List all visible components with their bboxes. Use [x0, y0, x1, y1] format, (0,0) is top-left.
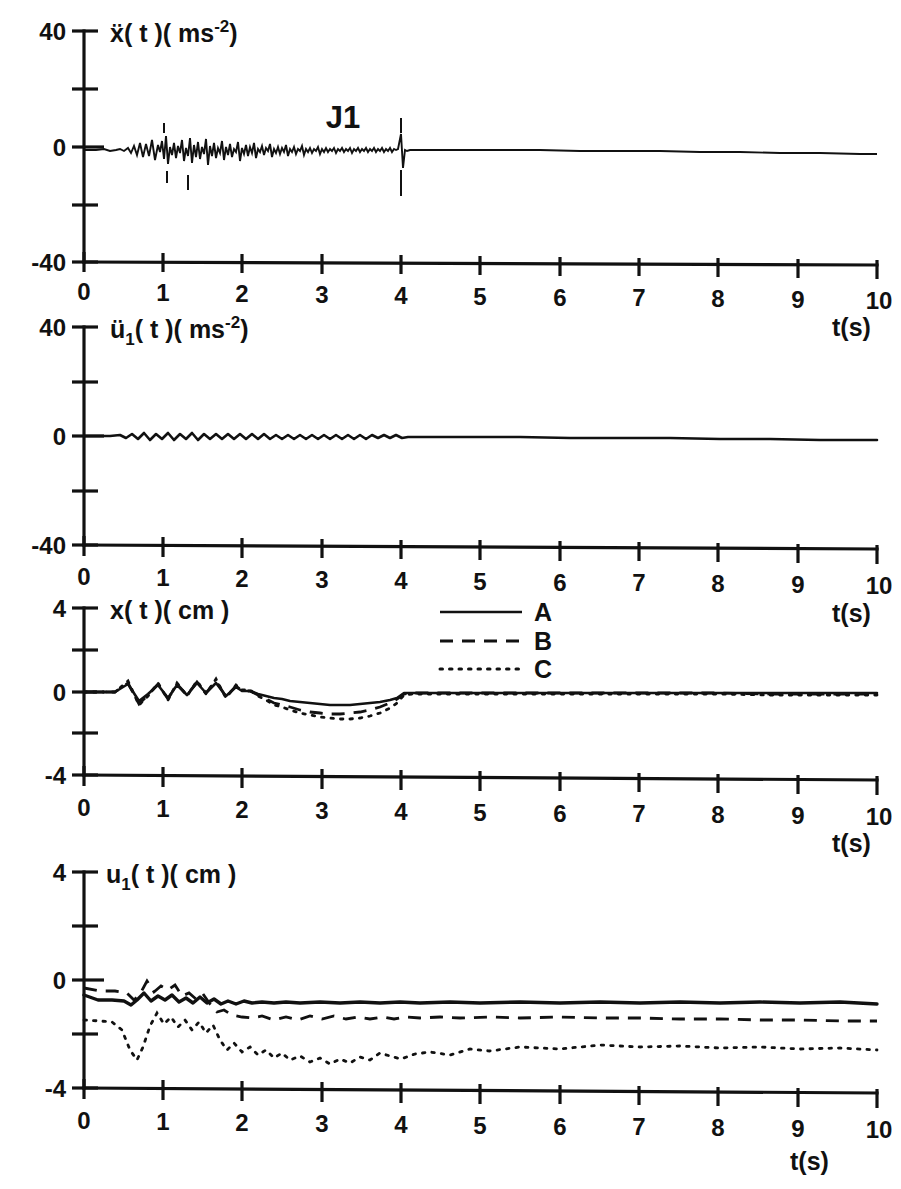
panel2-ylabel-40: 40 — [39, 314, 66, 341]
panel4-x-axis-unit: t(s) — [790, 1147, 829, 1175]
panel4-xlabel-1: 1 — [156, 1108, 169, 1135]
panel3-xlabel-1: 1 — [156, 795, 169, 822]
panel4-xlabel-10: 10 — [866, 1116, 893, 1143]
panel1-x-axis-unit: t(s) — [832, 313, 871, 341]
panel3-xlabel-6: 6 — [553, 800, 566, 827]
panel3-xlabel-9: 9 — [791, 802, 804, 829]
panel1-xlabel-3: 3 — [315, 281, 328, 308]
panel3-xlabel-5: 5 — [473, 799, 486, 826]
panel4-ylabel-0: 0 — [53, 967, 66, 994]
figure-container: 40 0 -40 ẍ( t )( ms-2) 0 1 2 3 — [0, 0, 901, 1189]
legend-label-c: C — [534, 655, 552, 683]
panel2-y-axis-title: ü1( t )( ms-2) — [110, 313, 248, 349]
panel2-xlabel-1: 1 — [156, 564, 169, 591]
panel4-xlabel-6: 6 — [553, 1113, 566, 1140]
panel1-y-axis-title: ẍ( t )( ms-2) — [110, 17, 238, 47]
panel2-xlabel-2: 2 — [235, 565, 248, 592]
panel-accel-ground: 40 0 -40 ẍ( t )( ms-2) 0 1 2 3 — [31, 17, 892, 341]
panel2-trace-a — [84, 433, 877, 440]
panel1-ylabel-40: 40 — [39, 18, 66, 45]
panel1-xlabel-1: 1 — [156, 279, 169, 306]
panel2-ylabel-0: 0 — [53, 423, 66, 450]
panel2-xlabel-7: 7 — [632, 569, 645, 596]
panel2-xlabel-3: 3 — [315, 566, 328, 593]
panel4-y-axis-title: u1( t )( cm ) — [106, 860, 236, 894]
panel-disp-ground: 4 0 -4 x( t )( cm ) A B C 0 — [45, 595, 893, 857]
panel3-x-axis-unit: t(s) — [832, 829, 871, 857]
panel4-xlabel-0: 0 — [77, 1107, 90, 1134]
multi-panel-time-history-figure: 40 0 -40 ẍ( t )( ms-2) 0 1 2 3 — [0, 0, 901, 1189]
panel4-xlabel-5: 5 — [473, 1112, 486, 1139]
panel1-xlabel-5: 5 — [473, 283, 486, 310]
panel2-xlabel-0: 0 — [77, 563, 90, 590]
panel4-xlabel-3: 3 — [315, 1110, 328, 1137]
panel2-ylabel-neg40: -40 — [31, 532, 66, 559]
panel3-ylabel-4: 4 — [53, 595, 67, 622]
panel4-xlabel-9: 9 — [791, 1115, 804, 1142]
legend-label-a: A — [534, 598, 552, 626]
panel3-trace-c — [84, 679, 877, 719]
panel4-ylabel-neg4: -4 — [45, 1075, 67, 1102]
panel1-xlabel-6: 6 — [553, 284, 566, 311]
panel1-xlabel-4: 4 — [394, 282, 408, 309]
panel3-xlabel-3: 3 — [315, 797, 328, 824]
panel-tag-j1: J1 — [326, 100, 360, 135]
panel1-ylabel-0: 0 — [53, 134, 66, 161]
panel4-trace-c — [84, 1013, 877, 1064]
panel3-ylabel-neg4: -4 — [45, 762, 67, 789]
panel4-y-axis-title-text: u1( t )( cm ) — [106, 860, 236, 894]
panel1-xlabel-10: 10 — [866, 287, 893, 314]
panel3-xlabel-7: 7 — [632, 800, 645, 827]
panel2-x-tick-labels: 0 1 2 3 4 5 6 7 8 9 10 — [77, 563, 892, 599]
panel4-xlabel-7: 7 — [632, 1113, 645, 1140]
panel4-xlabel-2: 2 — [235, 1109, 248, 1136]
panel3-xlabel-10: 10 — [866, 803, 893, 830]
panel1-xlabel-7: 7 — [632, 284, 645, 311]
panel3-ylabel-0: 0 — [53, 679, 66, 706]
panel2-xlabel-9: 9 — [791, 571, 804, 598]
panel-accel-response: 40 0 -40 ü1( t )( ms-2) 0 1 2 3 4 — [31, 313, 892, 627]
legend: A B C — [440, 598, 552, 683]
panel2-xlabel-4: 4 — [394, 567, 408, 594]
panel3-xlabel-8: 8 — [711, 801, 724, 828]
panel1-xlabel-2: 2 — [235, 280, 248, 307]
panel3-xlabel-4: 4 — [394, 798, 408, 825]
panel3-xlabel-2: 2 — [235, 796, 248, 823]
panel1-trace-a — [84, 134, 877, 168]
panel3-xlabel-0: 0 — [77, 794, 90, 821]
panel1-xlabel-8: 8 — [711, 285, 724, 312]
panel2-xlabel-5: 5 — [473, 568, 486, 595]
panel3-y-axis-title-text: x( t )( cm ) — [110, 596, 229, 624]
panel2-y-axis-title-text: ü1( t )( ms-2) — [110, 313, 248, 349]
panel1-xlabel-0: 0 — [77, 278, 90, 305]
panel4-xlabel-4: 4 — [394, 1111, 408, 1138]
panel-disp-response: 4 0 -4 u1( t )( cm ) 0 1 2 3 4 5 — [45, 859, 893, 1175]
panel3-trace-a — [84, 683, 877, 705]
panel4-x-tick-labels: 0 1 2 3 4 5 6 7 8 9 10 — [77, 1107, 892, 1143]
panel1-xlabel-9: 9 — [791, 286, 804, 313]
panel4-xlabel-8: 8 — [711, 1114, 724, 1141]
panel2-xlabel-8: 8 — [711, 570, 724, 597]
panel1-ylabel-neg40: -40 — [31, 249, 66, 276]
panel2-xlabel-10: 10 — [866, 572, 893, 599]
panel3-x-tick-labels: 0 1 2 3 4 5 6 7 8 9 10 — [77, 794, 892, 830]
panel1-y-axis-title-text: ẍ( t )( ms-2) — [110, 17, 238, 47]
panel2-xlabel-6: 6 — [553, 569, 566, 596]
panel3-trace-b — [84, 681, 877, 714]
panel4-ylabel-4: 4 — [53, 859, 67, 886]
panel1-x-tick-labels: 0 1 2 3 4 5 6 7 8 9 10 — [77, 278, 892, 314]
legend-label-b: B — [534, 627, 552, 655]
panel2-x-axis-unit: t(s) — [832, 599, 871, 627]
